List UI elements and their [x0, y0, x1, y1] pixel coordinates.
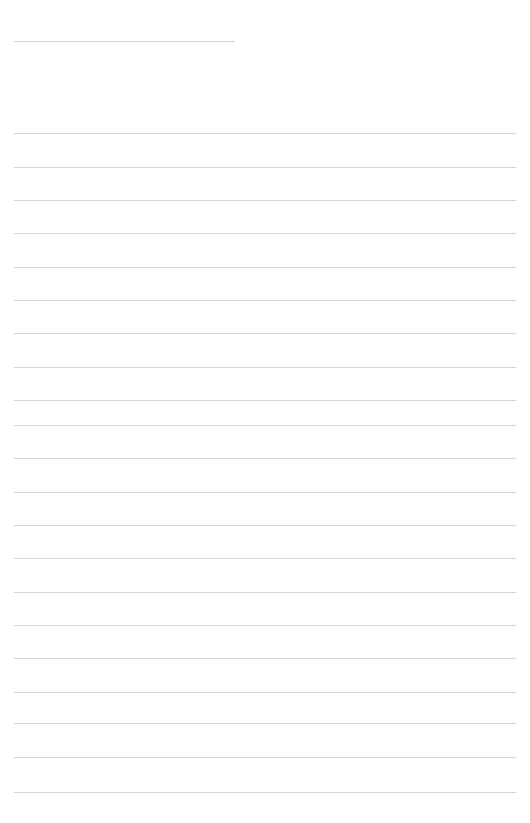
ruled-line — [14, 458, 516, 459]
ruled-line — [14, 592, 516, 593]
ruled-line-row[interactable] — [14, 435, 516, 459]
ruled-line-text[interactable] — [16, 571, 514, 591]
ruled-line-text[interactable] — [16, 179, 514, 199]
ruled-line-text[interactable] — [16, 279, 514, 299]
ruled-line-text[interactable] — [16, 771, 514, 791]
ruled-line — [14, 692, 516, 693]
ruled-line-row[interactable] — [14, 734, 516, 758]
ruled-line-row[interactable] — [14, 144, 516, 168]
ruled-line-text[interactable] — [16, 379, 514, 399]
ruled-line-text[interactable] — [16, 246, 514, 266]
ruled-line-row[interactable] — [14, 602, 516, 626]
ruled-line — [14, 625, 516, 626]
ruled-line-row[interactable] — [14, 502, 516, 526]
ruled-line-text[interactable] — [16, 212, 514, 232]
ruled-line — [14, 492, 516, 493]
ruled-line — [14, 233, 516, 234]
ruled-line — [14, 525, 516, 526]
ruled-line-row[interactable] — [14, 469, 516, 493]
ruled-line-row[interactable] — [14, 535, 516, 559]
ruled-line — [14, 200, 516, 201]
page-canvas — [0, 0, 530, 823]
ruled-line-text[interactable] — [16, 346, 514, 366]
ruled-line-text[interactable] — [16, 471, 514, 491]
ruled-line — [14, 425, 516, 426]
ruled-lines-area — [0, 0, 530, 823]
ruled-line-row[interactable] — [14, 177, 516, 201]
ruled-line-text[interactable] — [16, 537, 514, 557]
ruled-line-row[interactable] — [14, 110, 516, 134]
ruled-line — [14, 400, 516, 401]
ruled-line — [14, 558, 516, 559]
ruled-line-row[interactable] — [14, 244, 516, 268]
ruled-line-row[interactable] — [14, 210, 516, 234]
ruled-line-row[interactable] — [14, 402, 516, 426]
ruled-line-text[interactable] — [16, 404, 514, 424]
ruled-line-text[interactable] — [16, 504, 514, 524]
ruled-line — [14, 333, 516, 334]
ruled-line — [14, 300, 516, 301]
ruled-line — [14, 658, 516, 659]
ruled-line-text[interactable] — [16, 637, 514, 657]
ruled-line-row[interactable] — [14, 310, 516, 334]
ruled-line-text[interactable] — [16, 437, 514, 457]
ruled-line-row[interactable] — [14, 769, 516, 793]
ruled-line — [14, 792, 516, 793]
ruled-line — [14, 267, 516, 268]
ruled-line-text[interactable] — [16, 112, 514, 132]
ruled-line — [14, 133, 516, 134]
ruled-line — [14, 723, 516, 724]
ruled-line-row[interactable] — [14, 277, 516, 301]
ruled-line-text[interactable] — [16, 146, 514, 166]
ruled-line-row[interactable] — [14, 669, 516, 693]
ruled-line — [14, 167, 516, 168]
ruled-line-text[interactable] — [16, 312, 514, 332]
ruled-line-row[interactable] — [14, 377, 516, 401]
ruled-line-row[interactable] — [14, 700, 516, 724]
ruled-line — [14, 757, 516, 758]
ruled-line-text[interactable] — [16, 604, 514, 624]
ruled-line-text[interactable] — [16, 671, 514, 691]
ruled-line-row[interactable] — [14, 344, 516, 368]
ruled-line-row[interactable] — [14, 635, 516, 659]
ruled-line-row[interactable] — [14, 569, 516, 593]
ruled-line-text[interactable] — [16, 702, 514, 722]
ruled-line — [14, 367, 516, 368]
ruled-line-text[interactable] — [16, 736, 514, 756]
